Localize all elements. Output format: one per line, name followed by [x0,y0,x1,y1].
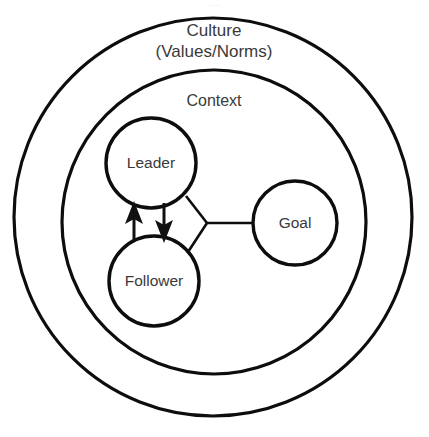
clipped-top-text: ..... [208,0,221,8]
culture-ring [14,18,412,416]
node-goal-label: Goal [279,214,312,231]
connector-follower-junction [188,223,207,252]
node-leader-label: Leader [127,154,175,171]
context-ring-label: Context [186,92,242,109]
culture-ring-label-line1: Culture [187,21,242,40]
culture-ring-label-line2: (Values/Norms) [156,42,273,61]
leadership-model-diagram: ..... Leader Follower Goal Culture (Valu… [0,0,429,437]
connector-leader-junction [186,196,207,223]
diagram-canvas: ..... Leader Follower Goal Culture (Valu… [0,0,429,437]
node-follower-label: Follower [125,272,184,289]
